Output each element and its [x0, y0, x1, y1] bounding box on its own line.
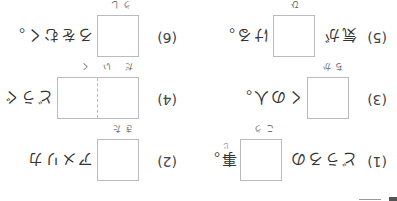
question-text-after: ろをむく。 [8, 26, 93, 47]
question-number: (4) [157, 92, 177, 108]
question-text-before: 気が [323, 26, 357, 47]
question-number: (1) [367, 154, 387, 170]
box-reading: うし [107, 0, 131, 11]
question-1: (1) どうろの こう 事。 じ [207, 139, 387, 181]
question-text-after: くの人。 [235, 88, 303, 109]
question-5: (5) 気が ひ ける。 [207, 15, 387, 57]
question-text-before: どうろの [289, 150, 357, 171]
answer-box[interactable] [307, 77, 349, 119]
question-3: (3) ちか くの人。 [207, 77, 387, 119]
box-divider [97, 78, 98, 118]
question-2: (2) きた アメリカ [7, 139, 177, 181]
box-reading: こう [250, 124, 274, 135]
question-text-after: アメリカ [26, 150, 93, 171]
box-reading: ひ [287, 0, 299, 11]
answer-box-double[interactable] [57, 77, 139, 119]
question-text-after: どうぐ [2, 88, 53, 109]
question-text-after: ける。 [218, 26, 269, 47]
worksheet: (1) どうろの こう 事。 じ (2) きた アメリカ (3) ちか くの人。… [0, 0, 397, 201]
box-reading: だいく [67, 62, 133, 73]
question-4: (4) だいく どうぐ [7, 77, 177, 119]
question-6: (6) うし ろをむく。 [7, 15, 177, 57]
question-number: (6) [157, 30, 177, 46]
after-reading: じ [223, 142, 229, 151]
answer-box[interactable] [240, 139, 282, 181]
corner-line [359, 199, 381, 200]
question-number: (2) [157, 154, 177, 170]
question-number: (3) [367, 92, 387, 108]
corner-mark [389, 197, 397, 201]
question-text-after: 事。 [203, 150, 237, 171]
box-reading: ちか [319, 62, 343, 73]
box-reading: きた [109, 124, 133, 135]
answer-box[interactable] [97, 15, 139, 57]
answer-box[interactable] [97, 139, 139, 181]
question-number: (5) [367, 30, 387, 46]
answer-box[interactable] [273, 15, 315, 57]
